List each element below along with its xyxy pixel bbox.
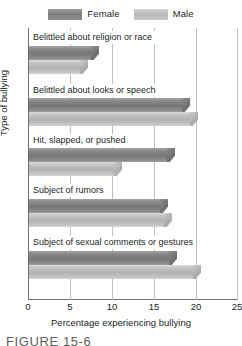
category-label-1: Belittled about looks or speech [31,84,159,97]
category-label-0: Belittled about religion or race [31,31,155,44]
bar-group-1: Belittled about looks or speech [29,80,238,130]
legend-label-female: Female [87,9,119,19]
bar-group-3: Subject of rumors [29,180,238,232]
bar-cap-female-1 [182,98,190,112]
category-label-3: Subject of rumors [31,184,107,197]
legend-label-male: Male [173,9,194,19]
legend-item-female: Female [48,9,119,20]
category-label-2: Hit, slapped, or pushed [31,134,129,147]
bar-male-2 [29,162,114,176]
x-tick-10: 10 [107,302,118,312]
x-axis-line [28,299,238,300]
bar-female-0 [29,46,91,60]
figure-caption: FIGURE 15-6 [6,334,91,346]
plot-area: Belittled about religion or race Belittl… [28,28,238,300]
y-axis-title: Type of bullying [0,70,9,136]
x-axis-title: Percentage experiencing bullying [0,317,242,328]
bar-group-2: Hit, slapped, or pushed [29,130,238,180]
x-tick-5: 5 [67,302,72,312]
bar-male-0 [29,60,80,74]
bar-group-0: Belittled about religion or race [29,28,238,80]
bar-female-4 [29,251,169,265]
bar-male-4 [29,265,193,279]
bar-cap-female-2 [167,148,175,162]
x-tick-25: 25 [232,302,242,312]
bar-cap-female-3 [160,199,168,213]
bar-cap-female-4 [169,251,177,265]
bar-female-2 [29,148,167,162]
x-tick-20: 20 [191,302,202,312]
x-tick-15: 15 [149,302,160,312]
bar-cap-male-0 [80,60,88,74]
chart-legend: Female Male [0,6,242,22]
x-tick-0: 0 [25,302,30,312]
legend-swatch-icon [134,9,168,20]
bar-cap-female-0 [91,46,99,60]
bar-cap-male-2 [114,162,122,176]
bar-female-1 [29,98,182,112]
category-label-4: Subject of sexual comments or gestures [31,236,196,249]
legend-item-male: Male [134,9,194,20]
bar-cap-male-3 [164,213,172,227]
bar-cap-male-1 [190,112,198,126]
bar-group-4: Subject of sexual comments or gestures [29,232,238,286]
bar-female-3 [29,199,160,213]
legend-swatch-icon [48,9,82,20]
bar-cap-male-4 [193,265,201,279]
bar-male-3 [29,213,164,227]
figure-container: Female Male Belittled about religion or … [0,0,242,346]
bar-male-1 [29,112,190,126]
